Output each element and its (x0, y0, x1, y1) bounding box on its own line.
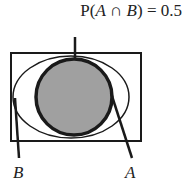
set-a-label: A (124, 163, 136, 182)
venn-diagram: B A (0, 0, 186, 185)
set-b-label: B (13, 163, 24, 182)
set-a-circle (36, 59, 112, 135)
